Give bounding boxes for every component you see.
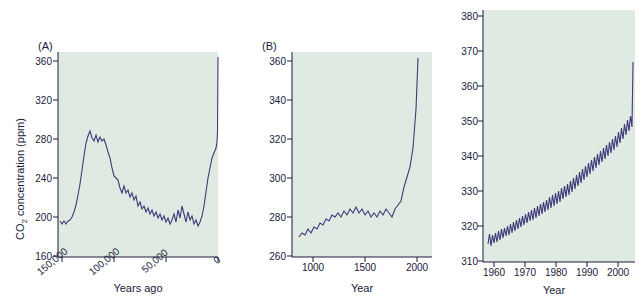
panel-c-svg — [440, 0, 644, 300]
panel-c-data-line — [488, 62, 633, 246]
panel-b-svg — [240, 0, 440, 300]
panel-a-svg — [0, 0, 240, 300]
panel-a: (A) CO2 concentration (ppm) 160 200 240 … — [0, 0, 240, 300]
panel-c: 310 320 330 340 350 360 370 380 1960 197… — [440, 0, 644, 300]
panel-b-data-line — [299, 58, 418, 237]
panel-b: (B) 260 280 300 320 340 360 1000 1500 20… — [240, 0, 440, 300]
panel-a-data-line — [60, 57, 218, 226]
